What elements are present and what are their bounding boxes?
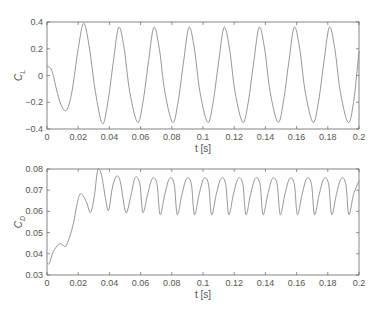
x-tick-label: 0.16: [288, 278, 306, 288]
x-tick-label: 0.18: [319, 132, 337, 142]
drag-coefficient-plot: 00.020.040.060.080.10.120.140.160.180.20…: [13, 164, 365, 300]
x-tick-label: 0.04: [101, 278, 119, 288]
y-axis-label-subscript: L: [19, 70, 26, 74]
x-tick-label: 0: [44, 278, 49, 288]
x-tick-label: 0.06: [132, 278, 150, 288]
x-tick-label: 0.08: [163, 278, 181, 288]
x-tick-label: 0.1: [197, 278, 210, 288]
y-tick-label: 0.03: [25, 270, 43, 280]
y-tick-label: 0: [38, 71, 43, 81]
y-tick-label: 0.08: [25, 164, 43, 174]
y-tick-label: 0.05: [25, 228, 43, 238]
data-line-c-l: [47, 23, 359, 123]
x-tick-label: 0: [44, 132, 49, 142]
y-axis-label-subscript: D: [19, 216, 26, 221]
x-axis-label: t [s]: [195, 289, 211, 300]
x-tick-label: 0.02: [69, 278, 87, 288]
axes-frame: [47, 169, 359, 275]
figure: 00.020.040.060.080.10.120.140.160.180.2−…: [0, 0, 383, 313]
x-tick-label: 0.2: [353, 132, 366, 142]
x-tick-label: 0.08: [163, 132, 181, 142]
y-tick-label: 0.4: [30, 17, 43, 27]
x-tick-label: 0.1: [197, 132, 210, 142]
x-tick-label: 0.12: [225, 278, 243, 288]
x-tick-label: 0.14: [257, 278, 275, 288]
x-tick-label: 0.06: [132, 132, 150, 142]
x-tick-label: 0.14: [257, 132, 275, 142]
x-tick-label: 0.12: [225, 132, 243, 142]
data-line-c-d: [47, 169, 359, 264]
y-tick-label: −0.2: [25, 97, 43, 107]
x-tick-label: 0.18: [319, 278, 337, 288]
x-axis-label: t [s]: [195, 143, 211, 154]
y-tick-label: 0.04: [25, 249, 43, 259]
y-tick-label: −0.4: [25, 124, 43, 134]
y-axis-label: CD: [13, 216, 26, 228]
x-tick-label: 0.02: [69, 132, 87, 142]
lift-coefficient-plot: 00.020.040.060.080.10.120.140.160.180.2−…: [13, 17, 365, 154]
y-tick-label: 0.07: [25, 185, 43, 195]
x-tick-label: 0.16: [288, 132, 306, 142]
y-tick-label: 0.06: [25, 206, 43, 216]
x-tick-label: 0.04: [101, 132, 119, 142]
x-tick-label: 0.2: [353, 278, 366, 288]
y-tick-label: 0.2: [30, 44, 43, 54]
axes-frame: [47, 22, 359, 129]
y-axis-label: CL: [13, 70, 26, 81]
